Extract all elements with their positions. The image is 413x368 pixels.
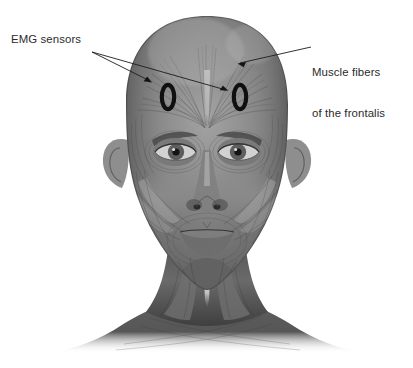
figure-canvas: EMG sensors Muscle fibers of the frontal… bbox=[0, 0, 413, 368]
label-muscle-fibers-line2: of the frontalis bbox=[312, 107, 385, 121]
label-muscle-fibers-line1: Muscle fibers bbox=[312, 66, 385, 80]
label-emg-sensors: EMG sensors bbox=[11, 33, 81, 47]
label-muscle-fibers: Muscle fibers of the frontalis bbox=[312, 39, 385, 148]
head bbox=[110, 10, 304, 300]
